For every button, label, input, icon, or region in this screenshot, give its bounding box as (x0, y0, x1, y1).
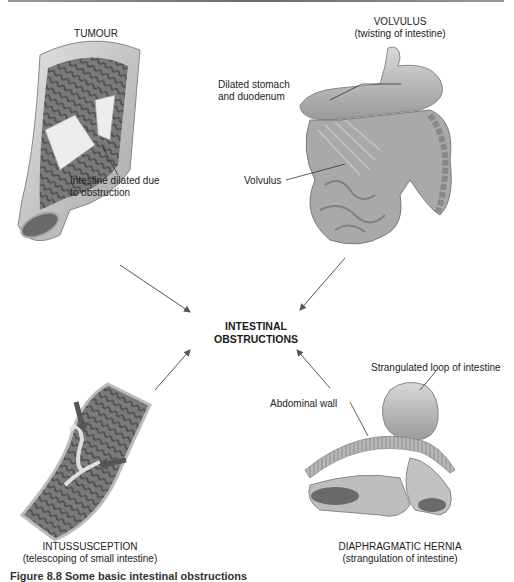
arrow-hernia (297, 350, 330, 388)
tumour-title-line1: TUMOUR (66, 28, 126, 40)
arrow-tumour (120, 265, 190, 312)
center-label-line1: INTESTINAL (206, 320, 306, 333)
hernia-wall-annotation: Abdominal wall (270, 398, 337, 410)
tumour-illustration (18, 41, 140, 242)
intussusception-title: INTUSSUSCEPTION (telescoping of small in… (10, 541, 170, 565)
intussusception-title-line1: INTUSSUSCEPTION (10, 541, 170, 553)
tumour-annotation-line1: Intestine dilated due (70, 175, 160, 187)
stomach-annotation-line2: and duodenum (218, 91, 290, 103)
figure-caption: Figure 8.8 Some basic intestinal obstruc… (10, 570, 247, 582)
volvulus-title-line1: VOLVULUS (330, 16, 470, 28)
volvulus-title-line2: (twisting of intestine) (330, 28, 470, 40)
tumour-annotation: Intestine dilated due to obstruction (70, 175, 160, 199)
stomach-annotation-line1: Dilated stomach (218, 79, 290, 91)
hernia-title-line2: (strangulation of intestine) (320, 553, 480, 565)
intussusception-title-line2: (telescoping of small intestine) (10, 553, 170, 565)
volvulus-annotation: Volvulus (244, 175, 281, 187)
volvulus-title: VOLVULUS (twisting of intestine) (330, 16, 470, 40)
hernia-title: DIAPHRAGMATIC HERNIA (strangulation of i… (320, 541, 480, 565)
volvulus-illustration (286, 47, 451, 244)
intussusception-illustration (22, 384, 150, 540)
hernia-loop-annotation: Strangulated loop of intestine (371, 362, 501, 374)
center-label-line2: OBSTRUCTIONS (206, 333, 306, 346)
volvulus-stomach-annotation: Dilated stomach and duodenum (218, 79, 290, 103)
tumour-title: TUMOUR (66, 28, 126, 40)
hernia-illustration (305, 371, 455, 516)
tumour-annotation-line2: to obstruction (70, 187, 160, 199)
arrow-volvulus (300, 258, 345, 310)
hernia-title-line1: DIAPHRAGMATIC HERNIA (320, 541, 480, 553)
arrow-intussusception (155, 350, 190, 390)
center-label: INTESTINAL OBSTRUCTIONS (206, 320, 306, 346)
